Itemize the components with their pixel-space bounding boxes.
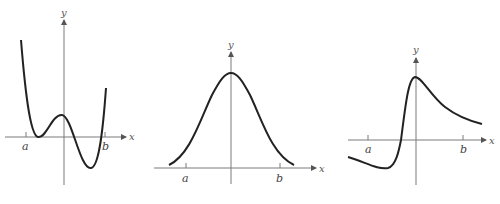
y-axis-label: y: [227, 39, 234, 50]
y-axis-label: y: [412, 44, 419, 55]
x-axis-label: x: [489, 135, 495, 146]
tick-label-b: b: [102, 140, 109, 153]
tick-label-b: b: [276, 172, 283, 185]
tick-label-b: b: [460, 143, 467, 156]
graph-3: x y a b: [348, 44, 495, 185]
tick-label-a: a: [22, 140, 29, 153]
y-axis-label: y: [60, 7, 67, 18]
graph-2: x y a b: [154, 39, 325, 185]
tick-label-a: a: [182, 172, 189, 185]
x-axis-label: x: [129, 131, 135, 142]
x-axis-label: x: [319, 163, 325, 174]
tick-label-a: a: [365, 143, 372, 156]
graph-1: x y a b: [5, 7, 135, 185]
